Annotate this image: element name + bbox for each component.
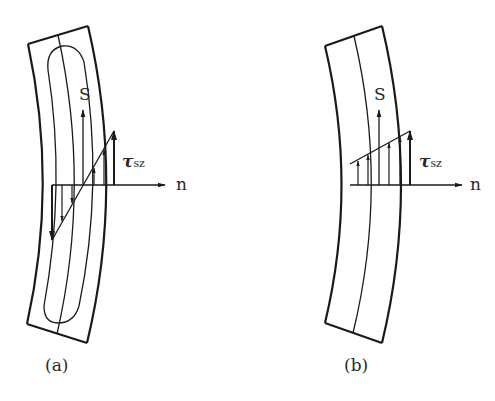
tau-label-b: τsz bbox=[419, 153, 442, 170]
tau-subscript-b: sz bbox=[430, 157, 441, 170]
n-axis-label-a: n bbox=[176, 176, 187, 193]
top-edge-b bbox=[325, 26, 382, 46]
outer-boundary-b bbox=[325, 46, 342, 323]
n-axis-label-b: n bbox=[470, 176, 481, 193]
tau-symbol-a: τ bbox=[122, 151, 133, 171]
figure-b bbox=[325, 26, 462, 343]
caption-b: (b) bbox=[344, 357, 368, 374]
figure-a bbox=[27, 26, 165, 343]
diagram-canvas bbox=[0, 0, 495, 401]
tau-subscript-a: sz bbox=[133, 157, 144, 170]
tau-symbol-b: τ bbox=[419, 151, 430, 171]
tau-label-a: τsz bbox=[122, 153, 145, 170]
outer-boundary-a bbox=[27, 44, 43, 324]
s-axis-label-b: S bbox=[374, 86, 386, 103]
s-axis-label-a: S bbox=[79, 86, 91, 103]
caption-a: (a) bbox=[45, 357, 68, 374]
